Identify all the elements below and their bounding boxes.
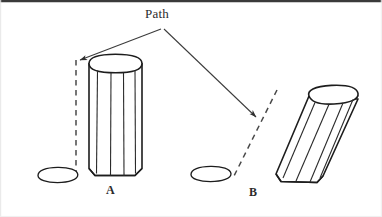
- resting-ellipse-b: [191, 166, 231, 181]
- object-label-a: A: [106, 183, 115, 198]
- diagram-svg: [0, 0, 382, 217]
- prism-top-b: [309, 85, 358, 104]
- leader-line-to-b: [164, 29, 256, 117]
- path-line-b: [233, 90, 277, 178]
- object-label-b: B: [249, 185, 257, 200]
- prism-top-a: [89, 54, 142, 73]
- prism-body-b: [276, 96, 358, 183]
- path-label: Path: [145, 6, 169, 22]
- object-a-group: [38, 54, 142, 182]
- resting-ellipse-a: [38, 167, 78, 182]
- figure-canvas: Path A B: [0, 0, 382, 217]
- object-b-group: [191, 85, 358, 182]
